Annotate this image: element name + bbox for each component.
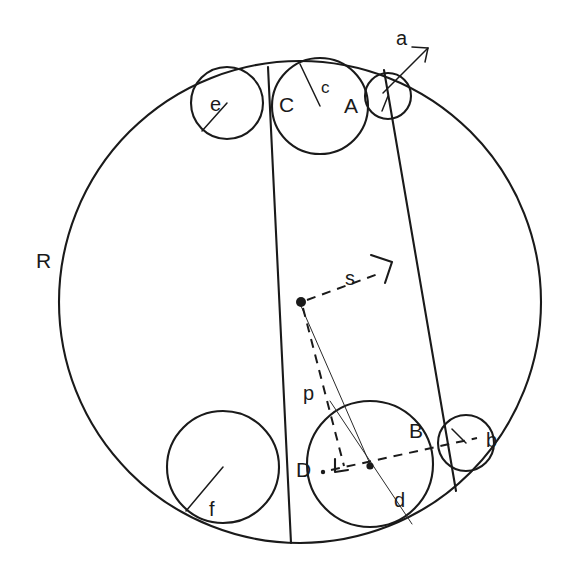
figure-canvas: R a b c d e f A B C D p s	[0, 0, 569, 575]
label-point-A: A	[344, 94, 358, 117]
label-e: e	[210, 93, 221, 115]
circle-a-radius-line	[382, 96, 388, 111]
label-s: s	[345, 267, 355, 289]
outer-center-dot	[296, 297, 306, 307]
label-f: f	[209, 498, 215, 520]
label-point-B: B	[409, 419, 423, 442]
circle-D-center-dot	[366, 462, 373, 469]
circle-A-radius-line	[300, 64, 320, 106]
label-R: R	[36, 249, 51, 272]
segment-s-dashed	[307, 274, 378, 300]
right-angle-mark-D	[335, 459, 348, 472]
label-a-arrowhead	[412, 47, 428, 62]
geometry-diagram: R a b c d e f A B C D p s	[0, 0, 569, 575]
label-c: c	[321, 78, 330, 97]
label-point-D: D	[296, 458, 311, 481]
circle-f-radius-line	[186, 467, 223, 511]
label-b: b	[486, 429, 497, 451]
segment-horizontal-dashed	[331, 438, 477, 470]
label-point-C: C	[279, 93, 294, 116]
right-angle-mark-s	[371, 255, 392, 283]
right-angle-dot-D	[321, 470, 325, 474]
label-p: p	[303, 382, 314, 404]
label-a: a	[396, 27, 408, 49]
label-d: d	[394, 489, 405, 511]
